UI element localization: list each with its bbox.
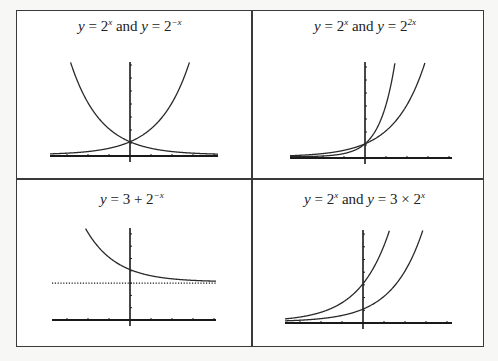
plots-canvas (0, 0, 498, 361)
curve-2 (290, 63, 395, 156)
curve-2 (71, 62, 218, 154)
curve-1 (290, 63, 425, 156)
curve-1 (86, 229, 216, 282)
plot-top-left (50, 62, 218, 162)
plot-top-right (290, 62, 452, 164)
curve-2 (285, 231, 389, 319)
plot-bottom-right (285, 230, 452, 329)
curve-1 (50, 62, 189, 154)
curve-1 (285, 230, 423, 320)
plot-bottom-left (52, 228, 216, 326)
